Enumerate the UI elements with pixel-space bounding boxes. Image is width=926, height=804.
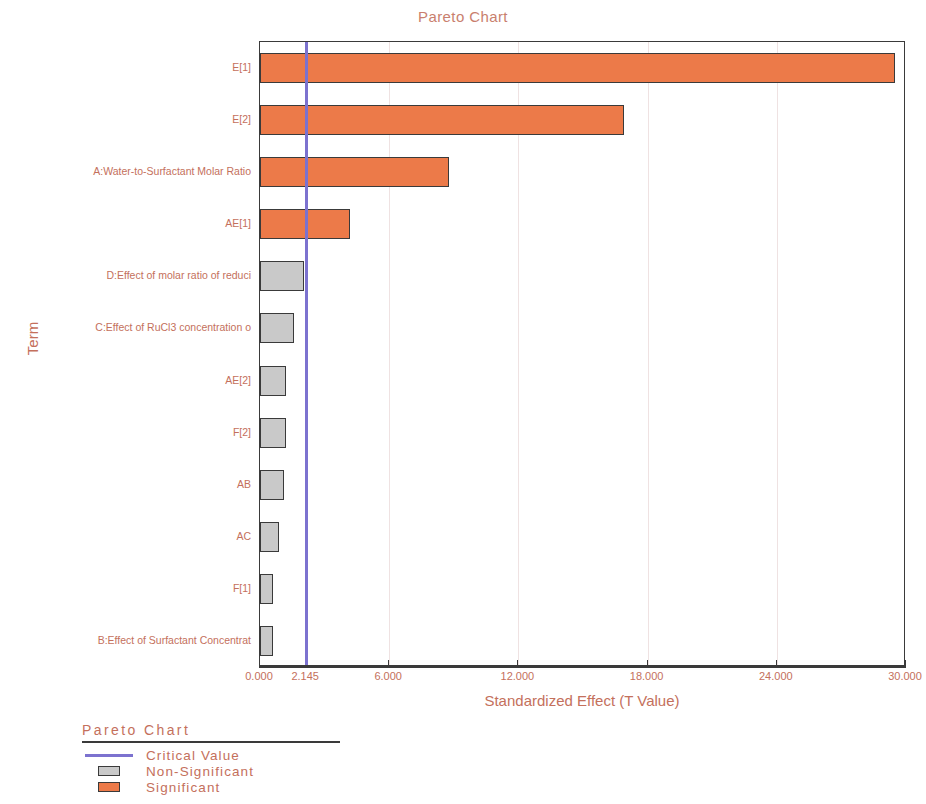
bar-non-significant[interactable] [260,574,273,604]
x-axis-tick-label: 2.145 [291,670,319,682]
legend-label: Significant [146,780,220,795]
bar-swatch [98,766,120,776]
legend-entries: Critical ValueNon-SignificantSignificant [82,747,382,795]
legend-entry[interactable]: Non-Significant [82,763,382,779]
y-axis-tick-label: E[1] [232,41,251,93]
bars-layer [260,42,904,665]
legend-title: Pareto Chart [82,722,382,738]
critical-value-line [305,42,308,665]
y-axis-tick-label: B:Effect of Surfactant Concentrat [98,614,251,666]
x-axis-tick [388,660,389,668]
bar-row [260,198,904,250]
legend-entry[interactable]: Significant [82,779,382,795]
y-axis-tick-label: F[2] [233,406,251,458]
x-axis-tick [259,660,260,668]
bar-non-significant[interactable] [260,522,279,552]
legend-swatch-box-icon [82,766,136,776]
bar-non-significant[interactable] [260,626,273,656]
x-axis-tick-label: 30.000 [888,670,922,682]
chart-title: Pareto Chart [0,8,926,25]
bar-row [260,42,904,94]
bar-row [260,563,904,615]
bar-significant[interactable] [260,157,449,187]
critical-line-swatch [85,754,133,757]
y-axis-tick-label: A:Water-to-Surfactant Molar Ratio [93,145,251,197]
x-axis-line [259,666,905,668]
x-axis-title: Standardized Effect (T Value) [259,692,905,709]
bar-row [260,94,904,146]
y-axis-tick-label: D:Effect of molar ratio of reduci [106,249,251,301]
x-axis-tick-label: 6.000 [374,670,402,682]
x-axis-tick [647,660,648,668]
bar-row [260,615,904,667]
x-axis-tick-label: 24.000 [759,670,793,682]
x-axis-tick [517,660,518,668]
bar-non-significant[interactable] [260,261,304,291]
y-axis-tick-label: AE[2] [225,354,251,406]
bar-significant[interactable] [260,53,895,83]
legend-divider [82,741,340,743]
bar-non-significant[interactable] [260,313,294,343]
plot-area [259,41,905,666]
bar-row [260,511,904,563]
y-axis-tick-label: AB [237,458,251,510]
legend-entry[interactable]: Critical Value [82,747,382,763]
x-axis-tick [776,660,777,668]
y-axis-tick-label: AE[1] [225,197,251,249]
bar-significant[interactable] [260,105,624,135]
bar-row [260,146,904,198]
bar-row [260,355,904,407]
bar-row [260,407,904,459]
chart-legend: Pareto Chart Critical ValueNon-Significa… [82,722,382,795]
y-axis-tick-label: E[2] [232,93,251,145]
bar-row [260,459,904,511]
legend-swatch-box-icon [82,782,136,792]
y-axis-tick-label: F[1] [233,562,251,614]
y-axis-labels: E[1]E[2]A:Water-to-Surfactant Molar Rati… [0,41,255,666]
x-axis-tick-label: 0.000 [245,670,273,682]
x-axis-tick [905,660,906,668]
y-axis-tick-label: C:Effect of RuCl3 concentration o [95,301,251,353]
x-axis-tick-label: 12.000 [501,670,535,682]
bar-non-significant[interactable] [260,418,286,448]
legend-label: Non-Significant [146,764,254,779]
bar-row [260,302,904,354]
bar-non-significant[interactable] [260,470,284,500]
bar-non-significant[interactable] [260,366,286,396]
bar-swatch [98,782,120,792]
y-axis-tick-label: AC [236,510,251,562]
legend-swatch-line-icon [82,754,136,757]
bar-row [260,250,904,302]
legend-label: Critical Value [146,748,240,763]
x-axis-tick-label: 18.000 [630,670,664,682]
